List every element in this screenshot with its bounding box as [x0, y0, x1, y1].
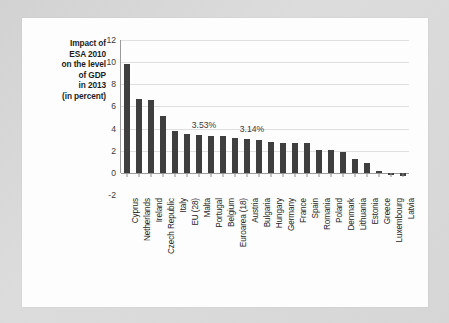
- bar-slot: [325, 40, 337, 195]
- data-label-3.14pct: 3.14%: [240, 124, 264, 134]
- category-label: France: [299, 198, 308, 223]
- category-label: Romania: [323, 198, 332, 230]
- category-label-text: Romania: [323, 198, 332, 230]
- category-label-text: Czech Republic: [167, 198, 176, 254]
- category-label-text: Lithuania: [359, 198, 368, 230]
- chart-panel: Impact ofESA 2010on the levelof GDPin 20…: [22, 18, 428, 307]
- category-label: Latvia: [407, 198, 416, 219]
- category-label-text: Denmark: [347, 198, 356, 231]
- bar: [328, 150, 334, 173]
- bar: [268, 142, 274, 172]
- bar-slot: [277, 40, 289, 195]
- x-tick-mark: [343, 173, 344, 177]
- bar-slot: [313, 40, 325, 195]
- category-label-text: Greece: [383, 198, 392, 224]
- bar-slot: [181, 40, 193, 195]
- bar: [304, 143, 310, 173]
- x-tick-mark: [151, 173, 152, 177]
- bar: [124, 64, 130, 173]
- x-axis-category-labels: CyprusNetherlandsIrelandCzech RepublicIt…: [121, 198, 409, 308]
- bar: [316, 150, 322, 173]
- category-label-text: EU (28): [191, 198, 200, 226]
- chart-title-line-5: (in percent): [28, 91, 106, 102]
- bar: [232, 138, 238, 173]
- category-label-text: Hungary: [275, 198, 284, 228]
- x-tick-mark: [211, 173, 212, 177]
- category-label-text: Portugal: [215, 198, 224, 228]
- x-tick-mark: [307, 173, 308, 177]
- category-label: Ireland: [155, 198, 164, 222]
- bar: [340, 152, 346, 173]
- chart-title-line-0: Impact of: [28, 38, 106, 49]
- category-label-text: Belgium: [227, 198, 236, 227]
- y-tick-label-10: 10: [106, 57, 116, 67]
- category-label-text: Cyprus: [131, 198, 140, 223]
- bar: [148, 100, 154, 173]
- x-tick-mark: [331, 173, 332, 177]
- category-label: Lithuania: [359, 198, 368, 230]
- bar-slot: [217, 40, 229, 195]
- x-tick-mark: [403, 173, 404, 177]
- x-tick-mark: [139, 173, 140, 177]
- category-label: Poland: [335, 198, 344, 223]
- y-tick-label-4: 4: [111, 124, 116, 134]
- bar: [196, 135, 202, 173]
- category-label-text: Ireland: [155, 198, 164, 222]
- category-label-text: Austria: [251, 198, 260, 223]
- bar-slot: [241, 40, 253, 195]
- bar-slot: [301, 40, 313, 195]
- bar: [184, 134, 190, 173]
- x-tick-mark: [271, 173, 272, 177]
- chart-title-line-2: on the level: [28, 59, 106, 70]
- bar: [136, 99, 142, 173]
- category-label: Spain: [311, 198, 320, 218]
- bar-slot: [169, 40, 181, 195]
- bar-slot: [385, 40, 397, 195]
- category-label: Luxembourg: [395, 198, 404, 243]
- bar-slot: [121, 40, 133, 195]
- bar: [364, 163, 370, 172]
- x-tick-mark: [367, 173, 368, 177]
- category-label-text: Netherlands: [143, 198, 152, 241]
- y-tick-label-2: 2: [111, 146, 116, 156]
- bar-slot: [289, 40, 301, 195]
- category-label: Italy: [179, 198, 188, 213]
- category-label: Greece: [383, 198, 392, 224]
- bar: [292, 143, 298, 173]
- bar-slot: [361, 40, 373, 195]
- chart-title-line-3: of GDP: [28, 70, 106, 81]
- x-tick-mark: [235, 173, 236, 177]
- category-label: Czech Republic: [167, 198, 176, 254]
- x-tick-mark: [295, 173, 296, 177]
- x-tick-mark: [355, 173, 356, 177]
- chart-title-line-1: ESA 2010: [28, 49, 106, 60]
- bar-slot: [337, 40, 349, 195]
- x-tick-mark: [379, 173, 380, 177]
- bar-slot: [397, 40, 409, 195]
- bar: [160, 116, 166, 173]
- y-tick-label--2: -2: [108, 190, 116, 200]
- data-label-3.53pct: 3.53%: [192, 120, 216, 130]
- y-tick-label-6: 6: [111, 101, 116, 111]
- x-tick-mark: [283, 173, 284, 177]
- bar-slot: [193, 40, 205, 195]
- y-tick-label-8: 8: [111, 79, 116, 89]
- x-tick-mark: [391, 173, 392, 177]
- category-label-text: Germany: [287, 198, 296, 231]
- category-label: Portugal: [215, 198, 224, 228]
- bar: [352, 159, 358, 173]
- category-label: Austria: [251, 198, 260, 223]
- x-tick-mark: [319, 173, 320, 177]
- bar-slot: [205, 40, 217, 195]
- category-label-text: Italy: [179, 198, 188, 213]
- category-label-text: Malta: [203, 198, 212, 218]
- bar-slot: [373, 40, 385, 195]
- y-tick-label-12: 12: [106, 35, 116, 45]
- category-label: Netherlands: [143, 198, 152, 241]
- x-tick-mark: [223, 173, 224, 177]
- bar: [220, 136, 226, 173]
- category-label: Estonia: [371, 198, 380, 225]
- bar-slot: [133, 40, 145, 195]
- x-tick-mark: [127, 173, 128, 177]
- bar-slot: [145, 40, 157, 195]
